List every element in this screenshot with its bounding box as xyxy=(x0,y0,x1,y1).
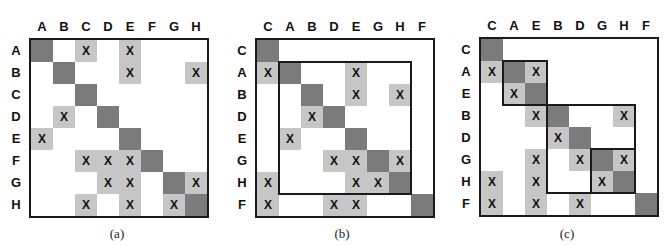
diagonal-cell xyxy=(367,150,389,172)
dependency-mark: X xyxy=(345,84,367,106)
dependency-mark: X xyxy=(389,150,411,172)
dependency-mark: X xyxy=(569,149,591,171)
column-label: C xyxy=(75,18,97,36)
panel-caption: (a) xyxy=(97,226,137,242)
panel-caption: (c) xyxy=(547,226,587,242)
panel-caption: (b) xyxy=(322,226,362,242)
dependency-mark: X xyxy=(301,106,323,128)
dependency-mark: X xyxy=(119,194,141,216)
dependency-mark: X xyxy=(345,62,367,84)
diagonal-cell xyxy=(525,83,547,105)
diagonal-cell xyxy=(279,62,301,84)
column-label: G xyxy=(367,18,389,36)
dependency-mark: X xyxy=(613,149,635,171)
dependency-mark: X xyxy=(569,193,591,215)
dependency-mark: X xyxy=(525,171,547,193)
row-label: H xyxy=(231,174,253,192)
dependency-mark: X xyxy=(345,194,367,216)
column-label: A xyxy=(503,17,525,35)
row-label: C xyxy=(455,41,477,59)
column-label: E xyxy=(345,18,367,36)
dependency-mark: X xyxy=(613,105,635,127)
diagonal-cell xyxy=(31,40,53,62)
row-label: D xyxy=(231,108,253,126)
row-label: F xyxy=(5,152,27,170)
dependency-mark: X xyxy=(481,61,503,83)
column-label: A xyxy=(31,18,53,36)
diagonal-cell xyxy=(119,128,141,150)
row-label: B xyxy=(231,86,253,104)
dependency-mark: X xyxy=(503,83,525,105)
diagonal-cell xyxy=(141,150,163,172)
row-label: A xyxy=(231,64,253,82)
dependency-mark: X xyxy=(481,193,503,215)
dependency-mark: X xyxy=(97,150,119,172)
diagonal-cell xyxy=(97,106,119,128)
dependency-mark: X xyxy=(345,150,367,172)
column-label: F xyxy=(635,17,657,35)
diagonal-cell xyxy=(569,127,591,149)
diagonal-cell xyxy=(547,105,569,127)
diagonal-cell xyxy=(301,84,323,106)
dependency-mark: X xyxy=(163,194,185,216)
dependency-mark: X xyxy=(257,172,279,194)
diagonal-cell xyxy=(75,84,97,106)
column-label: E xyxy=(525,17,547,35)
dependency-mark: X xyxy=(75,150,97,172)
dependency-mark: X xyxy=(119,62,141,84)
dependency-mark: X xyxy=(257,62,279,84)
dependency-mark: X xyxy=(119,40,141,62)
dependency-mark: X xyxy=(257,194,279,216)
dependency-mark: X xyxy=(323,194,345,216)
dependency-mark: X xyxy=(525,193,547,215)
row-label: F xyxy=(231,196,253,214)
row-label: D xyxy=(5,108,27,126)
row-label: B xyxy=(455,107,477,125)
dependency-mark: X xyxy=(345,172,367,194)
diagonal-cell xyxy=(163,172,185,194)
row-label: G xyxy=(231,152,253,170)
column-label: G xyxy=(591,17,613,35)
dependency-mark: X xyxy=(481,171,503,193)
column-label: G xyxy=(163,18,185,36)
matrix-grid: XXXXXXXXXXXXXXX xyxy=(255,38,435,218)
dependency-mark: X xyxy=(185,62,207,84)
column-label: H xyxy=(389,18,411,36)
row-label: A xyxy=(5,42,27,60)
column-label: F xyxy=(411,18,433,36)
diagonal-cell xyxy=(345,128,367,150)
dependency-mark: X xyxy=(31,128,53,150)
column-label: D xyxy=(97,18,119,36)
dependency-mark: X xyxy=(75,194,97,216)
diagonal-cell xyxy=(389,172,411,194)
row-label: G xyxy=(455,151,477,169)
dependency-mark: X xyxy=(97,172,119,194)
column-label: B xyxy=(547,17,569,35)
diagonal-cell xyxy=(323,106,345,128)
diagonal-cell xyxy=(257,40,279,62)
column-label: D xyxy=(569,17,591,35)
dependency-mark: X xyxy=(389,84,411,106)
dependency-mark: X xyxy=(119,172,141,194)
column-label: E xyxy=(119,18,141,36)
column-label: C xyxy=(481,17,503,35)
column-label: D xyxy=(323,18,345,36)
diagonal-cell xyxy=(613,171,635,193)
matrix-grid: XXXXXXXXXXXXXXX xyxy=(29,38,209,218)
column-label: H xyxy=(185,18,207,36)
diagonal-cell xyxy=(411,194,433,216)
dependency-mark: X xyxy=(591,171,613,193)
column-label: A xyxy=(279,18,301,36)
row-label: F xyxy=(455,195,477,213)
row-label: E xyxy=(5,130,27,148)
row-label: E xyxy=(455,85,477,103)
row-label: D xyxy=(455,129,477,147)
dependency-mark: X xyxy=(185,172,207,194)
matrix-grid: XXXXXXXXXXXXXXX xyxy=(479,37,659,217)
dependency-mark: X xyxy=(547,127,569,149)
dependency-mark: X xyxy=(75,40,97,62)
diagonal-cell xyxy=(185,194,207,216)
row-label: C xyxy=(231,42,253,60)
diagonal-cell xyxy=(503,61,525,83)
diagonal-cell xyxy=(53,62,75,84)
